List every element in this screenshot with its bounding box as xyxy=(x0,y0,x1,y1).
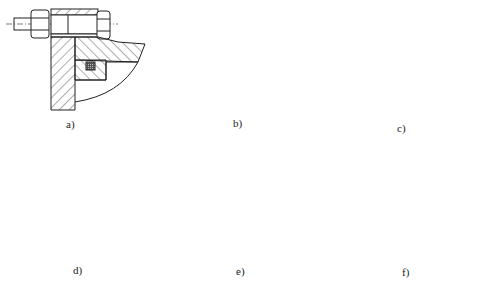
panel-a xyxy=(6,9,145,110)
panel-label-c: c) xyxy=(397,122,406,134)
panel-label-b: b) xyxy=(233,117,242,129)
seal-diagrams xyxy=(0,0,486,282)
panel-label-a: a) xyxy=(66,118,75,130)
panel-label-d: d) xyxy=(73,264,82,276)
panel-label-f: f) xyxy=(402,266,409,278)
panel-label-e: e) xyxy=(236,265,245,277)
